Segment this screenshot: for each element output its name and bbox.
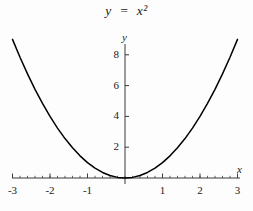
y-tick-label: 6 bbox=[103, 79, 119, 91]
x-tick-label: 1 bbox=[152, 184, 174, 196]
plot-figure: y = x² y x -3-2-1123 2468 bbox=[0, 0, 253, 211]
x-axis-label: x bbox=[237, 163, 242, 175]
x-tick-label: -2 bbox=[39, 184, 61, 196]
axes-group bbox=[12, 44, 240, 184]
x-tick-label: -3 bbox=[2, 184, 24, 196]
x-tick-label: 3 bbox=[227, 184, 249, 196]
y-tick-label: 4 bbox=[103, 109, 119, 121]
x-tick-label: -1 bbox=[77, 184, 99, 196]
x-tick-label: 2 bbox=[189, 184, 211, 196]
y-axis-label: y bbox=[122, 31, 127, 43]
y-tick-label: 8 bbox=[103, 48, 119, 60]
y-tick-label: 2 bbox=[103, 140, 119, 152]
